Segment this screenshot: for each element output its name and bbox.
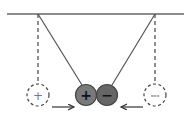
pendulum-diagram: + --- + − — [0, 0, 184, 122]
right-initial-ball: --- — [144, 84, 166, 106]
positive-ball: + — [76, 85, 97, 106]
right-string — [112, 14, 155, 85]
left-string — [38, 14, 82, 85]
plus-sign: + — [80, 87, 92, 103]
plus-sign: + — [33, 89, 43, 103]
minus-sign: − — [101, 87, 113, 103]
negative-ball: − — [97, 85, 118, 106]
minus-sign: --- — [151, 92, 160, 100]
left-initial-ball: + — [27, 84, 49, 106]
